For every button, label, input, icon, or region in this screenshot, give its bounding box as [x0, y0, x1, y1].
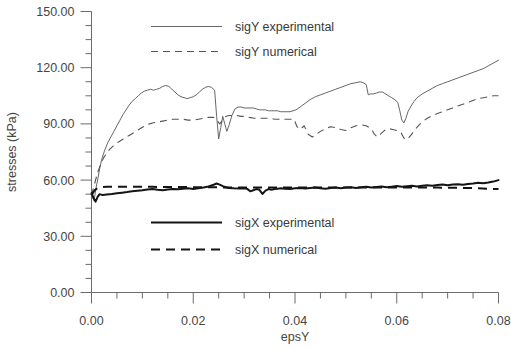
y-tick-label: 60.00 — [43, 174, 74, 188]
y-tick-label: 150.00 — [36, 5, 74, 19]
legend-label-sigy-experimental: sigY experimental — [235, 20, 334, 34]
x-tick-label: 0.06 — [385, 314, 409, 328]
x-tick-label: 0.00 — [79, 314, 103, 328]
x-tick-label: 0.08 — [486, 314, 510, 328]
y-tick-label: 120.00 — [36, 61, 74, 75]
y-tick-label: 30.00 — [43, 230, 74, 244]
legend-label-sigx-numerical: sigX numerical — [235, 243, 317, 257]
x-tick-label: 0.04 — [283, 314, 307, 328]
y-axis-title: stresses (kPa) — [5, 112, 19, 192]
x-tick-label: 0.02 — [181, 314, 205, 328]
stress-strain-plot: 0.0030.0060.0090.00120.00150.00 0.000.02… — [0, 0, 511, 348]
y-tick-label: 0.00 — [50, 286, 74, 300]
legend-label-sigy-numerical: sigY numerical — [235, 45, 317, 59]
legend-label-sigx-experimental: sigX experimental — [235, 216, 334, 230]
chart-figure: 0.0030.0060.0090.00120.00150.00 0.000.02… — [0, 0, 511, 348]
x-axis-title: epsY — [281, 330, 310, 344]
y-tick-label: 90.00 — [43, 117, 74, 131]
